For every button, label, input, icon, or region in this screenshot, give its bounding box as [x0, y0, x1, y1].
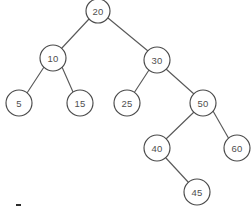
tree-node-25[interactable]: 25 [114, 90, 140, 116]
tree-node-40[interactable]: 40 [144, 135, 170, 161]
tree-node-30[interactable]: 30 [144, 47, 170, 73]
tree-node-50[interactable]: 50 [190, 90, 216, 116]
node-label-5: 5 [16, 98, 21, 109]
tree-edge-n30-n25 [134, 70, 149, 93]
tree-node-5[interactable]: 5 [6, 90, 32, 116]
node-label-60: 60 [232, 143, 243, 154]
tree-canvas: 2010305152550406045 [0, 0, 251, 209]
node-label-25: 25 [122, 98, 133, 109]
tree-edge-n20-n30 [108, 18, 148, 51]
tree-edge-n50-n60 [213, 111, 229, 139]
node-label-10: 10 [48, 53, 59, 64]
tree-node-45[interactable]: 45 [184, 179, 210, 205]
tree-node-60[interactable]: 60 [224, 135, 250, 161]
tree-edge-n50-n40 [166, 112, 194, 139]
stray-artifact-mark [16, 204, 21, 206]
node-label-20: 20 [93, 6, 104, 17]
node-label-30: 30 [152, 55, 163, 66]
tree-node-15[interactable]: 15 [67, 90, 93, 116]
tree-node-20[interactable]: 20 [86, 0, 110, 23]
node-label-15: 15 [75, 98, 86, 109]
tree-nodes-group: 2010305152550406045 [6, 0, 250, 205]
tree-node-10[interactable]: 10 [40, 45, 66, 71]
tree-edge-n40-n45 [165, 157, 189, 183]
tree-edge-n10-n5 [27, 67, 44, 93]
binary-tree-diagram: 2010305152550406045 [0, 0, 251, 209]
node-label-45: 45 [192, 187, 203, 198]
tree-edge-n10-n15 [62, 67, 73, 92]
tree-edge-n30-n50 [166, 69, 194, 94]
node-label-50: 50 [198, 98, 209, 109]
node-label-40: 40 [152, 143, 163, 154]
tree-edge-n20-n10 [61, 19, 89, 49]
